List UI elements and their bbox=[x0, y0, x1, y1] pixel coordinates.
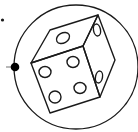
dice-icon bbox=[0, 0, 138, 132]
dice-icon-canvas: dice-in-circle bbox=[0, 0, 138, 132]
small-dot bbox=[1, 18, 4, 21]
knob-handle[interactable] bbox=[11, 63, 20, 72]
